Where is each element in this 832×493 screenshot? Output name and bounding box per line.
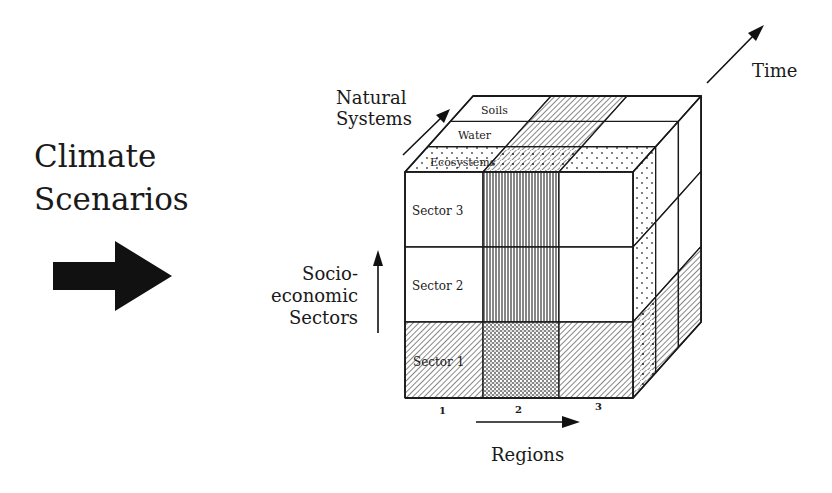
natural-systems-label-line2: Systems xyxy=(336,109,412,129)
region-number-1: 1 xyxy=(439,405,446,416)
row-label-sector2: Sector 2 xyxy=(412,279,463,293)
cell-sector3-region3 xyxy=(559,172,633,247)
cell-sector1-region2 xyxy=(483,322,559,398)
cell-sector2-region2 xyxy=(483,247,559,322)
time-axis-label: Time xyxy=(752,61,797,81)
sectors-label-line2: economic xyxy=(271,286,358,306)
layer-label-soils: Soils xyxy=(481,104,508,117)
cell-sector2-region3 xyxy=(559,247,633,322)
sectors-label-line1: Socio- xyxy=(302,264,358,284)
cell-sector3-region2 xyxy=(483,172,559,247)
region-number-3: 3 xyxy=(595,401,602,412)
layer-label-water: Water xyxy=(458,129,492,142)
cell-sector1-region3 xyxy=(559,322,633,398)
sectors-label-line3: Sectors xyxy=(289,308,358,328)
sectors-up-arrow-icon xyxy=(373,250,383,333)
impact-cube xyxy=(405,96,701,398)
row-label-sector3: Sector 3 xyxy=(412,204,463,218)
natural-systems-label-line1: Natural xyxy=(336,88,406,108)
region-number-2: 2 xyxy=(515,404,522,415)
regions-axis-label: Regions xyxy=(491,445,564,465)
layer-label-ecosystems: Ecosystems xyxy=(430,156,496,169)
regions-arrow-icon xyxy=(476,416,580,428)
right-block-arrow-icon xyxy=(53,241,172,311)
row-label-sector1: Sector 1 xyxy=(413,355,464,369)
